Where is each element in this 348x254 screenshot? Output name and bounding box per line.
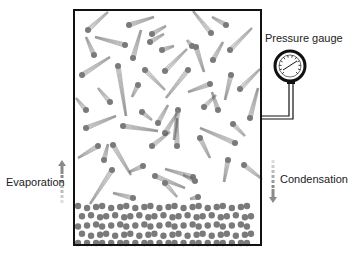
- liquid-molecule: [238, 204, 244, 210]
- liquid-molecule: [132, 205, 138, 211]
- liquid-molecule: [233, 212, 239, 218]
- vapor-molecule: [210, 57, 216, 63]
- liquid-molecule: [75, 223, 81, 229]
- liquid-molecule: [180, 222, 186, 228]
- liquid-molecule: [224, 213, 230, 219]
- vapor-molecule: [237, 86, 243, 92]
- vapor-molecule: [197, 135, 203, 141]
- vapor-molecule: [225, 157, 231, 163]
- liquid-molecule: [84, 205, 90, 211]
- liquid-molecule: [112, 212, 118, 218]
- vapor-molecule: [95, 143, 101, 149]
- liquid-molecule: [103, 231, 109, 237]
- vapor-molecule: [107, 99, 113, 105]
- liquid-molecule: [248, 231, 254, 237]
- vapor-molecule: [185, 67, 191, 73]
- liquid-molecule: [99, 203, 105, 209]
- liquid-molecule: [156, 205, 162, 211]
- vapor-molecule: [247, 115, 253, 121]
- liquid-molecule: [189, 221, 195, 227]
- vapor-molecule: [201, 104, 207, 110]
- vapor-molecule: [162, 180, 168, 186]
- liquid-molecule: [209, 212, 215, 218]
- liquid-molecule: [195, 203, 201, 209]
- liquid-molecule: [169, 232, 175, 238]
- liquid-molecule: [220, 223, 226, 229]
- liquid-molecule: [184, 212, 190, 218]
- liquid-molecule: [209, 233, 215, 239]
- vapor-molecule: [85, 27, 91, 33]
- liquid-molecule: [175, 213, 181, 219]
- liquid-molecule: [127, 213, 133, 219]
- liquid-molecule: [229, 222, 235, 228]
- liquid-molecule: [97, 232, 103, 238]
- liquid-molecule: [220, 203, 226, 209]
- liquid-molecule: [199, 213, 205, 219]
- vapor-molecule: [140, 163, 146, 169]
- liquid-molecule: [169, 214, 175, 220]
- vapor-molecule: [130, 55, 136, 61]
- liquid-molecule: [108, 222, 114, 228]
- pressure-gauge-label: Pressure gauge: [265, 32, 343, 44]
- liquid-molecule: [205, 222, 211, 228]
- liquid-molecule: [199, 231, 205, 237]
- liquid-molecule: [218, 214, 224, 220]
- vapor-molecule: [79, 72, 85, 78]
- evaporation-label: Evaporation: [6, 176, 65, 188]
- liquid-molecule: [175, 231, 181, 237]
- liquid-molecule: [156, 222, 162, 228]
- liquid-molecule: [93, 204, 99, 210]
- liquid-molecule: [147, 223, 153, 229]
- liquid-molecule: [121, 214, 127, 220]
- liquid-molecule: [88, 212, 94, 218]
- liquid-molecule: [121, 232, 127, 238]
- liquid-molecule: [193, 214, 199, 220]
- vapor-molecule: [223, 22, 229, 28]
- liquid-molecule: [233, 233, 239, 239]
- vapor-molecule: [110, 142, 116, 148]
- vapor-molecule: [174, 143, 180, 149]
- vapor-molecule: [152, 173, 158, 179]
- vapor-molecule: [149, 143, 155, 149]
- liquid-molecule: [244, 203, 250, 209]
- liquid-molecule: [242, 214, 248, 220]
- liquid-molecule: [244, 223, 250, 229]
- liquid-molecule: [141, 221, 147, 227]
- liquid-molecule: [103, 213, 109, 219]
- vapor-molecule: [207, 81, 213, 87]
- vapor-molecules: [75, 10, 262, 204]
- vapor-molecule: [159, 47, 165, 53]
- liquid-molecule: [238, 221, 244, 227]
- liquid-molecule: [136, 212, 142, 218]
- liquid-molecule: [165, 221, 171, 227]
- liquid-molecule: [79, 213, 85, 219]
- liquid-molecule: [84, 222, 90, 228]
- vapor-molecule: [115, 63, 121, 69]
- liquid-molecule: [171, 223, 177, 229]
- liquid-molecule: [123, 223, 129, 229]
- vapor-molecule: [193, 44, 199, 50]
- liquid-molecule: [214, 204, 220, 210]
- vapor-molecule: [91, 52, 97, 58]
- liquid-molecule: [75, 203, 81, 209]
- vapor-molecule: [101, 157, 107, 163]
- liquid-molecule: [165, 204, 171, 210]
- vapor-molecule: [135, 82, 141, 88]
- vapor-molecule: [232, 140, 238, 146]
- liquid-molecule: [171, 203, 177, 209]
- vapor-molecule: [215, 107, 221, 113]
- condensation-arrow-icon: [269, 160, 277, 203]
- liquid-molecule: [127, 231, 133, 237]
- vapor-molecule: [147, 39, 153, 45]
- liquid-molecule: [242, 232, 248, 238]
- liquid-molecule: [160, 233, 166, 239]
- pressure-gauge-icon: [261, 51, 305, 119]
- liquid-molecule: [189, 204, 195, 210]
- vapor-molecule: [120, 123, 126, 129]
- liquid-molecule: [132, 222, 138, 228]
- vapor-molecule: [227, 47, 233, 53]
- liquid-molecules: [75, 203, 254, 246]
- liquid-molecule: [145, 232, 151, 238]
- liquid-molecule: [248, 213, 254, 219]
- liquid-molecule: [224, 231, 230, 237]
